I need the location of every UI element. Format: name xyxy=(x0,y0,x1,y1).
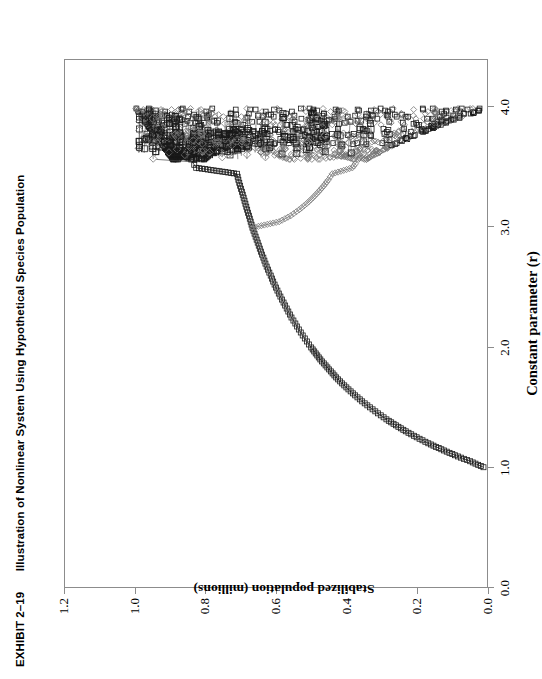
x-tick-mark xyxy=(488,467,494,468)
y-tick-label: 0.6 xyxy=(268,598,284,634)
bifurcation-plot xyxy=(65,60,487,587)
y-tick-mark xyxy=(64,588,65,594)
chart-page: EXHIBIT 2–19 Illustration of Nonlinear S… xyxy=(0,0,542,679)
y-tick-label: 0.0 xyxy=(480,598,496,634)
x-tick-mark xyxy=(488,106,494,107)
y-tick-label: 0.8 xyxy=(197,598,213,634)
x-tick-label: 1.0 xyxy=(497,460,513,476)
exhibit-title: Illustration of Nonlinear System Using H… xyxy=(14,175,26,572)
exhibit-number: EXHIBIT 2–19 xyxy=(14,592,26,667)
x-tick-label: 0.0 xyxy=(497,580,513,596)
y-tick-label: 0.4 xyxy=(339,598,355,634)
exhibit-headline: EXHIBIT 2–19 Illustration of Nonlinear S… xyxy=(14,175,26,667)
x-tick-label: 3.0 xyxy=(497,219,513,235)
y-axis-title: Stabilized population (millions) xyxy=(134,581,434,597)
x-tick-label: 4.0 xyxy=(497,99,513,115)
plot-area xyxy=(64,59,488,588)
y-tick-label: 1.2 xyxy=(56,598,72,634)
y-tick-label: 1.0 xyxy=(127,598,143,634)
y-tick-mark xyxy=(488,588,489,594)
x-axis-title: Constant parameter (r) xyxy=(524,59,541,588)
x-tick-mark xyxy=(488,347,494,348)
y-tick-label: 0.2 xyxy=(409,598,425,634)
x-tick-mark xyxy=(488,226,494,227)
x-tick-label: 2.0 xyxy=(497,339,513,355)
